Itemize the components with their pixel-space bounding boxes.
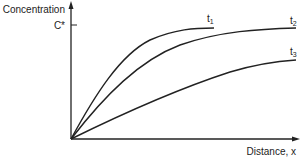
- y-axis-label: Concentration: [3, 4, 65, 15]
- curve-label-t1: t1: [207, 13, 214, 25]
- curve-label-t2: t2: [290, 15, 297, 27]
- c-star-label: C*: [54, 20, 65, 31]
- curve-t1: [71, 28, 214, 139]
- x-axis-arrow-icon: [292, 137, 300, 142]
- x-axis-label: Distance, x: [247, 146, 296, 157]
- diagram-canvas: Concentration C* Distance, x t1 t2 t3: [0, 0, 307, 158]
- curve-label-t3: t3: [290, 46, 297, 58]
- y-axis-arrow-icon: [69, 1, 74, 9]
